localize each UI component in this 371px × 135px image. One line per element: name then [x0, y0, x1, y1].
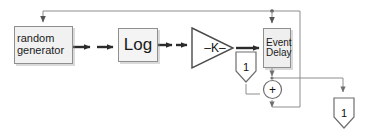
block-sum-junction[interactable]: +: [262, 79, 283, 100]
wire-constant-to-sum: [246, 84, 260, 94]
circle-sum-icon: [262, 79, 283, 100]
pentagon-terminator-icon: [234, 50, 258, 84]
block-random-generator[interactable]: randomgenerator: [14, 26, 73, 64]
block-gain[interactable]: –K–: [190, 26, 236, 70]
block-event-delay[interactable]: EventDelay: [263, 28, 291, 68]
block-random-generator-label: randomgenerator: [15, 33, 72, 56]
wire-layer: [0, 0, 371, 135]
block-log[interactable]: Log: [118, 28, 158, 62]
block-constant-one[interactable]: 1: [234, 50, 258, 84]
triangle-gain-icon: [190, 26, 236, 70]
block-output-one[interactable]: 1: [332, 96, 356, 130]
pentagon-terminator-icon: [332, 96, 356, 130]
block-log-label: Log: [119, 36, 157, 54]
block-event-delay-label: EventDelay: [264, 38, 292, 59]
block-diagram-canvas: randomgenerator Log –K– EventDelay 1 + 1: [0, 0, 371, 135]
